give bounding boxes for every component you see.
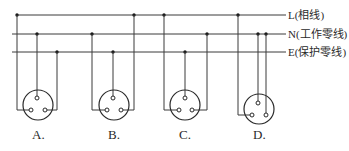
socket-outline bbox=[244, 94, 274, 124]
label-E: E(保护零线) bbox=[288, 45, 346, 59]
socket-wiring-diagram: L(相线) N(工作零线) E(保护零线) A. B. bbox=[0, 0, 349, 151]
wire-right-hole bbox=[122, 15, 134, 110]
socket-d: D. bbox=[236, 13, 274, 142]
wire-right-hole bbox=[193, 34, 207, 110]
socket-b: B. bbox=[90, 13, 135, 142]
label-N: N(工作零线) bbox=[288, 27, 348, 41]
wire-right-hole bbox=[46, 52, 57, 110]
socket-hole-right bbox=[119, 108, 123, 112]
socket-hole-top bbox=[256, 101, 260, 105]
socket-hole-right bbox=[264, 113, 268, 117]
wire-left-hole bbox=[17, 15, 31, 110]
option-label-c: C. bbox=[179, 127, 191, 142]
option-label-d: D. bbox=[253, 127, 266, 142]
socket-outline bbox=[99, 90, 129, 120]
option-label-a: A. bbox=[32, 127, 45, 142]
socket-hole-left bbox=[29, 108, 33, 112]
socket-a: A. bbox=[15, 13, 58, 142]
wire-left-hole bbox=[92, 34, 107, 110]
socket-hole-right bbox=[190, 108, 194, 112]
socket-outline bbox=[23, 90, 53, 120]
socket-c: C. bbox=[162, 13, 208, 142]
option-label-b: B. bbox=[108, 127, 120, 142]
socket-hole-left bbox=[250, 113, 254, 117]
wire-left-hole bbox=[164, 15, 178, 110]
socket-hole-left bbox=[105, 108, 109, 112]
label-L: L(相线) bbox=[288, 8, 324, 22]
socket-hole-right bbox=[43, 108, 47, 112]
socket-hole-top bbox=[111, 96, 115, 100]
socket-hole-left bbox=[177, 108, 181, 112]
wire-left-hole bbox=[238, 15, 251, 115]
socket-hole-top bbox=[35, 96, 39, 100]
socket-hole-top bbox=[183, 96, 187, 100]
